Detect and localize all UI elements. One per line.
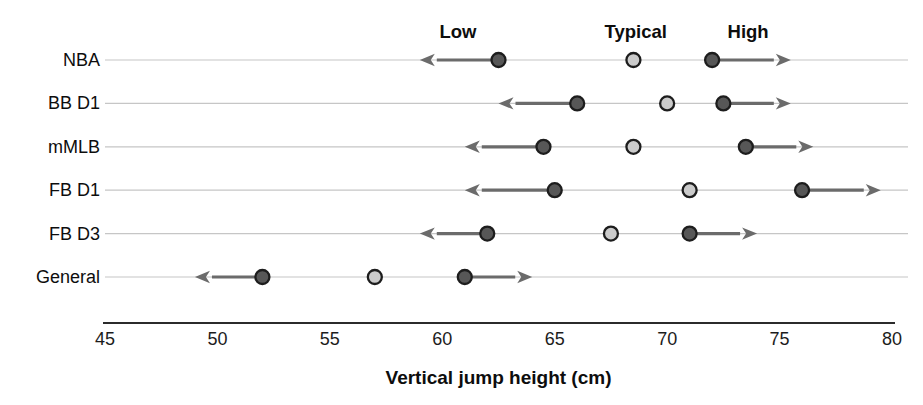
low-dot bbox=[492, 53, 506, 67]
low-dot bbox=[480, 227, 494, 241]
low-dot bbox=[255, 270, 269, 284]
column-header: Typical bbox=[604, 21, 666, 42]
low-dot bbox=[536, 140, 550, 154]
category-label: mMLB bbox=[48, 137, 100, 157]
high-dot bbox=[716, 96, 730, 110]
x-axis-title: Vertical jump height (cm) bbox=[386, 367, 612, 388]
x-tick-label: 60 bbox=[432, 329, 452, 349]
high-dot bbox=[458, 270, 472, 284]
high-dot bbox=[739, 140, 753, 154]
low-dot bbox=[570, 96, 584, 110]
category-label: FB D3 bbox=[49, 224, 100, 244]
category-label: General bbox=[36, 267, 100, 287]
column-header: Low bbox=[440, 21, 478, 42]
high-dot bbox=[795, 183, 809, 197]
x-tick-label: 55 bbox=[320, 329, 340, 349]
high-dot bbox=[705, 53, 719, 67]
typical-dot bbox=[683, 183, 697, 197]
x-tick-label: 75 bbox=[770, 329, 790, 349]
typical-dot bbox=[660, 96, 674, 110]
typical-dot bbox=[368, 270, 382, 284]
x-tick-label: 65 bbox=[545, 329, 565, 349]
category-label: NBA bbox=[63, 50, 100, 70]
vertical-jump-chart-figure: NBABB D1mMLBFB D1FB D3General45505560657… bbox=[0, 0, 923, 405]
x-tick-label: 80 bbox=[882, 329, 902, 349]
column-header: High bbox=[728, 21, 769, 42]
vertical-jump-chart: NBABB D1mMLBFB D1FB D3General45505560657… bbox=[0, 0, 923, 405]
low-dot bbox=[548, 183, 562, 197]
typical-dot bbox=[626, 140, 640, 154]
category-label: BB D1 bbox=[48, 93, 100, 113]
x-tick-label: 70 bbox=[657, 329, 677, 349]
high-dot bbox=[683, 227, 697, 241]
category-label: FB D1 bbox=[49, 180, 100, 200]
typical-dot bbox=[626, 53, 640, 67]
x-tick-label: 45 bbox=[95, 329, 115, 349]
typical-dot bbox=[604, 227, 618, 241]
x-tick-label: 50 bbox=[207, 329, 227, 349]
